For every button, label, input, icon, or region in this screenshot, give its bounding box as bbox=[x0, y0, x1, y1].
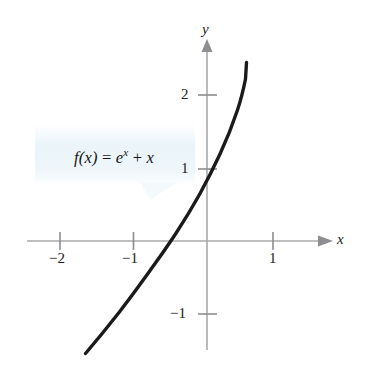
formula-x: x bbox=[147, 148, 155, 167]
y-axis-arrowhead bbox=[202, 39, 213, 52]
plot-canvas bbox=[0, 0, 369, 384]
y-tick-label-2: 2 bbox=[181, 86, 189, 103]
function-formula-text: f(x) = ex + x bbox=[74, 146, 154, 168]
x-axis-label: x bbox=[337, 231, 344, 248]
formula-fx: f(x) bbox=[74, 148, 98, 167]
function-graph-figure: −2 −1 1 2 1 −1 x y f(x) = ex + x bbox=[0, 0, 369, 384]
x-axis-arrowhead bbox=[318, 236, 333, 247]
function-curve bbox=[86, 63, 247, 354]
function-formula-annotation: f(x) = ex + x bbox=[40, 128, 188, 186]
x-tick-label--2: −2 bbox=[49, 250, 65, 267]
y-axis-label: y bbox=[202, 21, 209, 38]
x-tick-label--1: −1 bbox=[122, 250, 138, 267]
formula-plus: + bbox=[128, 148, 146, 167]
formula-equals: = bbox=[98, 148, 116, 167]
y-tick-label--1: −1 bbox=[170, 305, 186, 322]
x-tick-label-1: 1 bbox=[269, 250, 277, 267]
